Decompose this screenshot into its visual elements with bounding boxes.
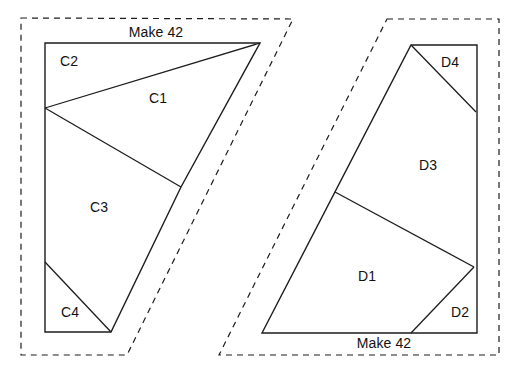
piece-label-d4: D4	[441, 54, 459, 70]
piece-label-c2: C2	[60, 53, 78, 69]
make-label-bottom: Make 42	[357, 335, 412, 351]
template-group-d: D4 D3 D1 D2 Make 42	[219, 19, 499, 355]
template-group-c: C1 C2 C3 C4 Make 42	[21, 18, 293, 355]
make-label-top: Make 42	[129, 24, 184, 40]
c-sewn-line-outline	[45, 43, 260, 332]
piece-label-c3: C3	[90, 199, 108, 215]
pattern-diagram: C1 C2 C3 C4 Make 42 D4 D3 D1 D2 Make 42	[0, 0, 514, 373]
d-sewn-line-outline	[262, 45, 477, 333]
piece-label-c4: C4	[61, 304, 79, 320]
piece-label-d3: D3	[419, 157, 437, 173]
pattern-sheet: C1 C2 C3 C4 Make 42 D4 D3 D1 D2 Make 42	[0, 0, 514, 373]
piece-label-c1: C1	[149, 90, 167, 106]
piece-label-d1: D1	[358, 268, 376, 284]
piece-label-d2: D2	[451, 304, 469, 320]
